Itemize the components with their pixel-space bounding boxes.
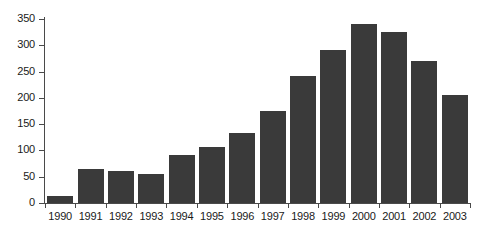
x-axis-tick [45, 204, 46, 208]
bar [442, 95, 468, 203]
x-axis-tick [197, 204, 198, 208]
bar [381, 32, 407, 203]
x-axis-tick [166, 204, 167, 208]
y-axis-tick [39, 124, 44, 125]
x-axis-tick [288, 204, 289, 208]
y-axis-tick [39, 19, 44, 20]
x-axis-tick [409, 204, 410, 208]
bar [169, 155, 195, 203]
x-axis-tick [106, 204, 107, 208]
y-axis-label: 250 [0, 66, 35, 77]
x-axis-tick [227, 204, 228, 208]
y-axis-label: 150 [0, 118, 35, 129]
y-axis-label: 350 [0, 13, 35, 24]
x-axis-label: 2003 [435, 211, 475, 222]
plot-area [45, 19, 470, 203]
y-axis-tick [39, 98, 44, 99]
y-axis-tick [39, 177, 44, 178]
bar [138, 174, 164, 203]
x-axis-tick [258, 204, 259, 208]
bar [229, 133, 255, 203]
x-axis-tick [470, 204, 471, 208]
y-axis-tick [39, 150, 44, 151]
y-axis-tick [39, 203, 44, 204]
x-axis-tick [318, 204, 319, 208]
bar [199, 147, 225, 203]
bar [108, 171, 134, 203]
y-axis-label: 300 [0, 39, 35, 50]
x-axis-tick [75, 204, 76, 208]
y-axis-tick [39, 45, 44, 46]
bar [260, 111, 286, 203]
bar-chart: 050100150200250300350 199019911992199319… [0, 0, 482, 237]
y-axis-label: 0 [0, 197, 35, 208]
y-axis-label: 200 [0, 92, 35, 103]
y-axis-label: 50 [0, 171, 35, 182]
x-axis-tick [136, 204, 137, 208]
x-axis-tick [440, 204, 441, 208]
bar [411, 61, 437, 203]
bar [290, 76, 316, 203]
bar [47, 196, 73, 203]
bar [320, 50, 346, 204]
bar [351, 24, 377, 203]
bar [78, 169, 104, 203]
y-axis-label: 100 [0, 144, 35, 155]
x-axis-tick [379, 204, 380, 208]
y-axis-tick [39, 72, 44, 73]
x-axis-tick [349, 204, 350, 208]
